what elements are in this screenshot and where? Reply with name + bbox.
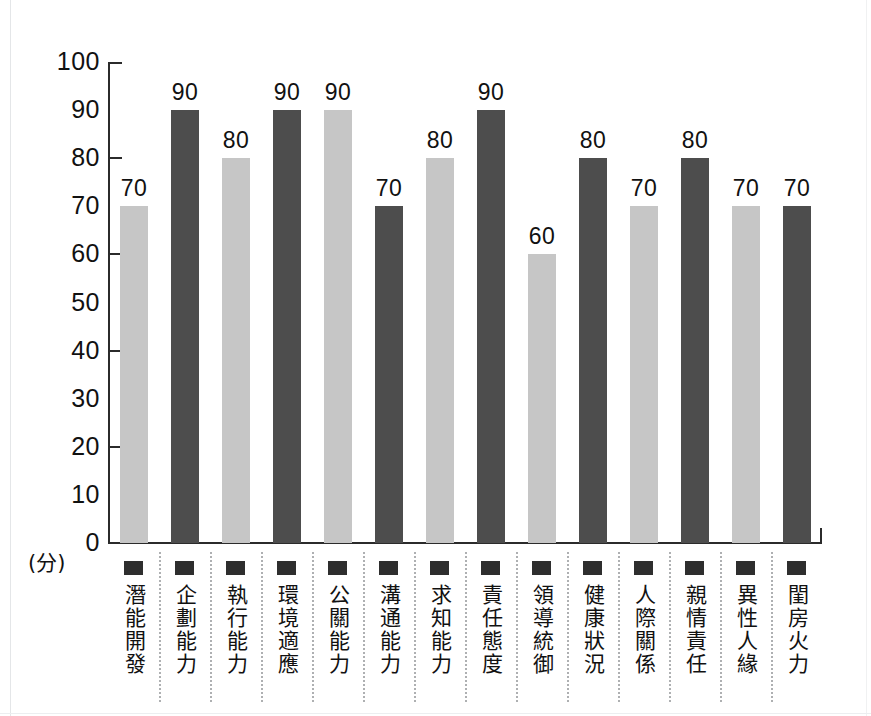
category-label-text: 公關能力 xyxy=(325,584,350,676)
category-label-column: 公關能力 xyxy=(312,546,363,716)
bar xyxy=(222,158,250,543)
legend-swatch-icon xyxy=(634,561,653,575)
legend-swatch-icon xyxy=(787,561,806,575)
bar xyxy=(120,206,148,543)
bar xyxy=(630,206,658,543)
bar xyxy=(477,110,505,543)
category-label-column: 責任態度 xyxy=(465,546,516,716)
category-label-column: 企劃能力 xyxy=(159,546,210,716)
y-axis-label-20: 20 xyxy=(48,434,100,459)
y-axis-label-90: 90 xyxy=(48,97,100,122)
bar xyxy=(171,110,199,543)
category-label-column: 閨房火力 xyxy=(771,546,822,716)
y-axis-tick-80 xyxy=(108,157,122,159)
category-label-text: 健康狀況 xyxy=(580,584,605,676)
y-axis-unit-label: (分) xyxy=(28,552,104,574)
bar-value-label: 70 xyxy=(359,177,419,200)
y-axis-label-60: 60 xyxy=(48,241,100,266)
category-label-column: 環境適應 xyxy=(261,546,312,716)
bar-value-label: 70 xyxy=(104,177,164,200)
y-axis-label-30: 30 xyxy=(48,386,100,411)
category-label-text: 異性人緣 xyxy=(733,584,758,676)
category-label-text: 親情責任 xyxy=(682,584,707,676)
bar-value-label: 70 xyxy=(767,177,827,200)
y-axis-line xyxy=(108,62,110,544)
category-label-column: 親情責任 xyxy=(669,546,720,716)
legend-swatch-icon xyxy=(583,561,602,575)
y-axis-label-80: 80 xyxy=(48,145,100,170)
x-axis-line xyxy=(108,542,822,544)
y-axis-label-10: 10 xyxy=(48,482,100,507)
category-label-column: 求知能力 xyxy=(414,546,465,716)
bar xyxy=(732,206,760,543)
category-label-text: 領導統御 xyxy=(529,584,554,676)
category-label-text: 潛能開發 xyxy=(121,584,146,676)
category-label-column: 人際關係 xyxy=(618,546,669,716)
legend-swatch-icon xyxy=(328,561,347,575)
y-axis-label-40: 40 xyxy=(48,338,100,363)
category-label-text: 企劃能力 xyxy=(172,584,197,676)
bar xyxy=(273,110,301,543)
bar xyxy=(681,158,709,543)
bar-value-label: 80 xyxy=(206,129,266,152)
category-label-column: 執行能力 xyxy=(210,546,261,716)
bar-value-label: 90 xyxy=(461,81,521,104)
category-label-column: 溝通能力 xyxy=(363,546,414,716)
bar-value-label: 80 xyxy=(410,129,470,152)
legend-swatch-icon xyxy=(430,561,449,575)
legend-swatch-icon xyxy=(736,561,755,575)
bar-value-label: 90 xyxy=(155,81,215,104)
category-label-text: 溝通能力 xyxy=(376,584,401,676)
y-axis-label-70: 70 xyxy=(48,193,100,218)
category-label-text: 責任態度 xyxy=(478,584,503,676)
bar-value-label: 80 xyxy=(665,129,725,152)
bar xyxy=(375,206,403,543)
category-label-text: 人際關係 xyxy=(631,584,656,676)
legend-swatch-icon xyxy=(277,561,296,575)
category-label-text: 環境適應 xyxy=(274,584,299,676)
category-label-text: 求知能力 xyxy=(427,584,452,676)
bar-value-label: 80 xyxy=(563,129,623,152)
legend-swatch-icon xyxy=(685,561,704,575)
category-label-text: 執行能力 xyxy=(223,584,248,676)
category-label-column: 健康狀況 xyxy=(567,546,618,716)
bar xyxy=(579,158,607,543)
bar-chart: 1009080706050403020100 (分) 7090809090708… xyxy=(0,0,871,716)
bar xyxy=(528,254,556,543)
legend-swatch-icon xyxy=(175,561,194,575)
legend-swatch-icon xyxy=(532,561,551,575)
bar-value-label: 90 xyxy=(308,81,368,104)
y-axis-label-50: 50 xyxy=(48,290,100,315)
y-axis-label-100: 100 xyxy=(48,49,100,74)
bar xyxy=(324,110,352,543)
bar-value-label: 60 xyxy=(512,225,572,248)
y-axis-top-tick xyxy=(108,62,122,64)
legend-swatch-icon xyxy=(379,561,398,575)
category-label-column: 領導統御 xyxy=(516,546,567,716)
category-label-column: 潛能開發 xyxy=(108,546,159,716)
category-label-text: 閨房火力 xyxy=(784,584,809,676)
category-label-column: 異性人緣 xyxy=(720,546,771,716)
x-axis-end-tick xyxy=(820,528,822,544)
bar-value-label: 70 xyxy=(614,177,674,200)
legend-swatch-icon xyxy=(124,561,143,575)
bar xyxy=(426,158,454,543)
legend-swatch-icon xyxy=(481,561,500,575)
legend-swatch-icon xyxy=(226,561,245,575)
bar xyxy=(783,206,811,543)
